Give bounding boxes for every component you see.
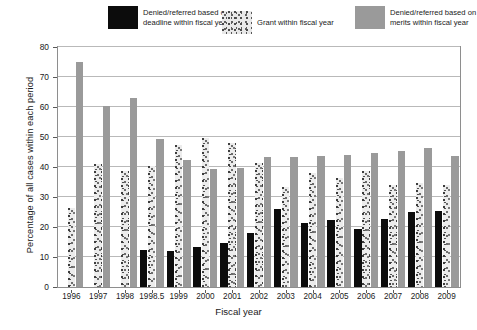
y-tick-label-40: 40	[40, 162, 49, 172]
bar-group-2001	[219, 47, 246, 287]
x-tick-label-1997: 1997	[89, 292, 107, 301]
bar-group-2006	[353, 47, 380, 287]
bar-group-2007	[380, 47, 407, 287]
bar-grant-2007	[389, 185, 396, 287]
x-tick-label-2004: 2004	[303, 292, 321, 301]
bar-merits-2008	[424, 148, 431, 288]
bar-deadline-2000	[193, 247, 200, 287]
x-tick-label-1999: 1999	[169, 292, 187, 301]
legend-item-grant: Grant within fiscal year	[222, 11, 334, 34]
bar-deadline-2002	[247, 233, 254, 287]
legend-label-merits-line1: Denied/referred based on	[390, 8, 476, 18]
chart-figure: Denied/referred based on deadline within…	[0, 0, 477, 330]
bar-deadline-2004	[301, 223, 308, 287]
y-tick-label-60: 60	[40, 102, 49, 112]
bar-deadline-2006	[354, 229, 361, 287]
bar-group-1998.5	[138, 47, 165, 287]
bar-merits-1999	[183, 160, 190, 288]
bar-merits-2007	[398, 151, 405, 287]
bar-deadline-1998.5	[140, 250, 147, 287]
bar-merits-2001	[237, 168, 244, 287]
x-tick-label-2003: 2003	[277, 292, 295, 301]
bar-merits-1998	[130, 98, 137, 287]
legend-swatch-merits	[355, 6, 385, 29]
y-tick-label-20: 20	[40, 222, 49, 232]
bar-deadline-2009	[435, 211, 442, 287]
bar-group-2000	[192, 47, 219, 287]
legend-label-merits-line2: merits within fiscal year	[390, 18, 476, 28]
bar-deadline-2008	[408, 212, 415, 287]
legend-item-deadline: Denied/referred based on deadline within…	[108, 6, 230, 29]
x-tick-label-1998.5: 1998.5	[139, 292, 164, 301]
bar-deadline-2005	[327, 220, 334, 287]
x-tick-label-2006: 2006	[357, 292, 375, 301]
x-tick-label-1996: 1996	[62, 292, 80, 301]
legend-label-grant: Grant within fiscal year	[257, 18, 334, 28]
legend-label-deadline-line2: deadline within fiscal year	[143, 18, 230, 28]
bar-groups	[58, 47, 460, 287]
x-tick-label-2000: 2000	[196, 292, 214, 301]
bar-merits-2003	[290, 157, 297, 288]
bar-merits-1996	[76, 62, 83, 287]
bar-deadline-2007	[381, 219, 388, 287]
bar-group-2009	[433, 47, 460, 287]
bar-group-1999	[165, 47, 192, 287]
bar-merits-2009	[451, 156, 458, 287]
legend-item-merits: Denied/referred based on merits within f…	[355, 6, 476, 29]
legend-swatch-grant	[222, 11, 252, 34]
bar-grant-2005	[336, 178, 343, 287]
bar-grant-2003	[282, 187, 289, 287]
bar-deadline-2001	[220, 243, 227, 287]
x-tick-label-2009: 2009	[437, 292, 455, 301]
x-tick-label-1998: 1998	[116, 292, 134, 301]
bar-merits-2002	[264, 157, 271, 288]
x-tick-label-2002: 2002	[250, 292, 268, 301]
y-tick-label-70: 70	[40, 72, 49, 82]
bar-merits-2005	[344, 155, 351, 287]
bar-group-2004	[299, 47, 326, 287]
bar-grant-2008	[416, 183, 423, 287]
bar-merits-2004	[317, 156, 324, 287]
y-tick-label-30: 30	[40, 192, 49, 202]
bar-grant-1998	[121, 171, 128, 287]
legend-label-deadline: Denied/referred based on deadline within…	[143, 8, 230, 27]
bar-group-2002	[246, 47, 273, 287]
x-tick-label-2007: 2007	[384, 292, 402, 301]
bar-deadline-2003	[274, 209, 281, 287]
bar-grant-2002	[255, 163, 262, 287]
x-tick-label-2008: 2008	[411, 292, 429, 301]
x-tick-label-2001: 2001	[223, 292, 241, 301]
chart-legend: Denied/referred based on deadline within…	[0, 6, 477, 40]
bar-merits-2006	[371, 153, 378, 287]
bar-grant-2004	[309, 173, 316, 287]
bar-grant-1999	[175, 145, 182, 288]
bar-group-1998	[112, 47, 139, 287]
bar-deadline-1999	[167, 251, 174, 287]
x-axis-title: Fiscal year	[0, 306, 477, 317]
bar-grant-2000	[202, 138, 209, 287]
bar-grant-2006	[362, 171, 369, 287]
bar-grant-2001	[228, 143, 235, 287]
y-tick-label-50: 50	[40, 132, 49, 142]
bar-group-1997	[85, 47, 112, 287]
legend-label-deadline-line1: Denied/referred based on	[143, 8, 230, 18]
y-tick-label-10: 10	[40, 252, 49, 262]
bar-group-2005	[326, 47, 353, 287]
x-tick-label-2005: 2005	[330, 292, 348, 301]
bar-merits-1998.5	[156, 139, 163, 288]
bar-grant-1998.5	[148, 166, 155, 287]
y-axis-ticks: 01020304050607080	[0, 46, 57, 289]
bar-group-1996	[58, 47, 85, 287]
bar-merits-1997	[103, 106, 110, 287]
bar-grant-1997	[94, 164, 101, 287]
bar-grant-1996	[68, 208, 75, 288]
x-axis-ticks: 1996199719981998.51999200020012002200320…	[57, 290, 461, 304]
bar-grant-2009	[443, 185, 450, 287]
bar-group-2008	[406, 47, 433, 287]
bar-merits-2000	[210, 169, 217, 288]
legend-label-merits: Denied/referred based on merits within f…	[390, 8, 476, 27]
legend-swatch-deadline	[108, 6, 138, 29]
y-tick-label-80: 80	[40, 42, 49, 52]
y-tick-label-0: 0	[44, 282, 49, 292]
plot-area	[57, 46, 461, 288]
